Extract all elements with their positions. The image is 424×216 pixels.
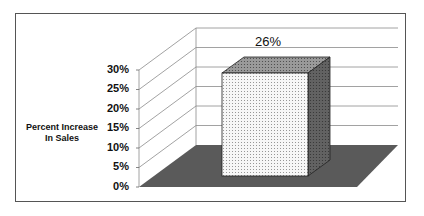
y-tick-20: 20%	[89, 102, 129, 114]
y-tick-5: 5%	[89, 160, 129, 172]
chart-plot	[0, 0, 424, 216]
bar-side	[308, 57, 330, 176]
bar-0	[222, 57, 330, 176]
y-tick-0: 0%	[89, 180, 129, 192]
y-tick-25: 25%	[89, 82, 129, 94]
y-tick-30: 30%	[89, 63, 129, 75]
y-tick-15: 15%	[89, 121, 129, 133]
y-tick-10: 10%	[89, 141, 129, 153]
bar-data-label: 26%	[255, 34, 281, 49]
bar-front	[222, 73, 308, 176]
